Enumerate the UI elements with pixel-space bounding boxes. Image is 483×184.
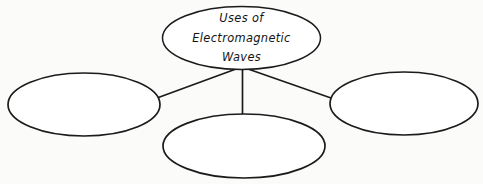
center-node-label-line-3: Waves	[222, 50, 261, 64]
branch-node-right[interactable]	[330, 72, 478, 135]
branch-node-bottom-outline	[163, 114, 325, 178]
connector-center-to-left	[157, 69, 236, 98]
center-node-label-line-1: Uses of	[219, 11, 265, 25]
center-node[interactable]: Uses of Electromagnetic Waves	[163, 7, 321, 70]
branch-node-left-outline	[8, 73, 160, 136]
concept-map-svg: Uses of Electromagnetic Waves	[0, 0, 483, 184]
connector-center-to-right	[248, 69, 331, 98]
connector-group	[157, 69, 331, 115]
branch-node-left[interactable]	[8, 73, 160, 136]
branch-node-bottom[interactable]	[163, 114, 325, 178]
branch-node-right-outline	[330, 72, 478, 135]
center-node-label-line-2: Electromagnetic	[192, 31, 291, 45]
concept-map-canvas: Uses of Electromagnetic Waves	[0, 0, 483, 184]
